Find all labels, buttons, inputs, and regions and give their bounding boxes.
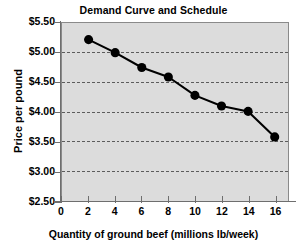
y-tick-label: $5.50 bbox=[3, 16, 55, 27]
x-tick-label: 12 bbox=[210, 205, 234, 217]
x-axis-tick-labels: 0246810121416 bbox=[61, 205, 289, 221]
y-tick-label: $4.00 bbox=[3, 106, 55, 117]
x-tick-mark bbox=[222, 196, 223, 203]
x-tick-label: 14 bbox=[237, 205, 261, 217]
x-tick-mark bbox=[61, 196, 62, 203]
x-tick-label: 2 bbox=[76, 205, 100, 217]
x-tick-label: 8 bbox=[156, 205, 180, 217]
data-point bbox=[137, 63, 146, 72]
y-tick-label: $3.00 bbox=[3, 166, 55, 177]
x-tick-mark bbox=[195, 196, 196, 203]
data-point bbox=[244, 107, 253, 116]
y-axis-tick-labels: $2.50$3.00$3.50$4.00$4.50$5.00$5.50 bbox=[0, 22, 55, 202]
data-point bbox=[84, 35, 93, 44]
y-tick-label: $4.50 bbox=[3, 76, 55, 87]
data-point bbox=[164, 72, 173, 81]
data-point bbox=[217, 102, 226, 111]
x-tick-mark bbox=[276, 196, 277, 203]
x-axis-title: Quantity of ground beef (millions lb/wee… bbox=[0, 228, 307, 240]
y-tick-label: $2.50 bbox=[3, 196, 55, 207]
x-tick-mark bbox=[141, 196, 142, 203]
x-tick-mark bbox=[88, 196, 89, 203]
x-tick-label: 10 bbox=[183, 205, 207, 217]
x-tick-label: 16 bbox=[264, 205, 288, 217]
x-tick-mark bbox=[168, 196, 169, 203]
data-point bbox=[270, 132, 279, 141]
x-tick-label: 4 bbox=[103, 205, 127, 217]
plot-area bbox=[61, 22, 289, 202]
x-tick-label: 0 bbox=[49, 205, 73, 217]
data-series-layer bbox=[62, 23, 288, 201]
x-tick-mark bbox=[249, 196, 250, 203]
demand-curve-chart: Demand Curve and Schedule Price per poun… bbox=[0, 0, 307, 249]
y-tick-label: $3.50 bbox=[3, 136, 55, 147]
data-point bbox=[111, 48, 120, 57]
y-tick-label: $5.00 bbox=[3, 46, 55, 57]
x-axis-tick-marks bbox=[61, 196, 289, 204]
data-point bbox=[190, 91, 199, 100]
x-tick-mark bbox=[115, 196, 116, 203]
x-tick-label: 6 bbox=[129, 205, 153, 217]
